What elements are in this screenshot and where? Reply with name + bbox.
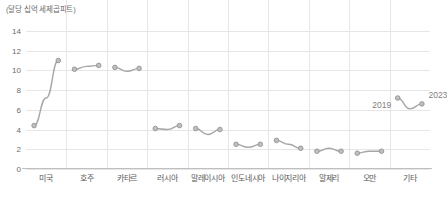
x-axis-label: 나이지리아 — [272, 172, 306, 183]
footer-strip — [0, 190, 435, 203]
x-axis-label: 호주 — [80, 172, 93, 183]
data-point-marker — [315, 149, 320, 154]
series-line — [115, 67, 139, 71]
series-line — [277, 140, 301, 148]
data-point-marker — [274, 138, 279, 143]
x-axis-label: 알제리 — [319, 172, 339, 183]
data-point-marker — [193, 126, 198, 131]
data-point-marker — [420, 102, 425, 107]
data-point-marker — [355, 151, 360, 156]
data-point-marker — [177, 123, 182, 128]
data-point-marker — [234, 142, 239, 147]
y-axis-tick-label: 6 — [17, 105, 21, 114]
y-axis-tick-label: 12 — [12, 46, 21, 55]
axis-unit-title: (달당 십억 세제곱피트) — [6, 3, 76, 14]
data-point-marker — [32, 123, 37, 128]
data-point-marker — [72, 67, 77, 72]
data-point-marker — [153, 126, 158, 131]
series-lines — [26, 21, 430, 169]
point-annotation-label: 2023 — [428, 90, 447, 100]
data-point-marker — [137, 66, 142, 71]
y-axis-tick-label: 14 — [12, 26, 21, 35]
x-axis-label: 인도네시아 — [231, 172, 265, 183]
y-axis-tick-label: 10 — [12, 66, 21, 75]
series-line — [236, 144, 260, 147]
data-point-marker — [339, 149, 344, 154]
data-point-marker — [56, 58, 61, 63]
y-axis-tick-label: 8 — [17, 86, 21, 95]
series-line — [155, 126, 179, 130]
x-axis-label: 오만 — [363, 172, 376, 183]
series-line — [317, 148, 341, 151]
data-point-marker — [258, 142, 263, 147]
x-axis-label: 기타 — [403, 172, 416, 183]
x-axis-label: 카타르 — [117, 172, 137, 183]
y-axis-tick-label: 4 — [17, 125, 21, 134]
data-point-marker — [113, 65, 118, 70]
plot-area: 02468101214 20192023 — [26, 21, 430, 169]
y-axis-tick-label: 0 — [17, 165, 21, 174]
gridline — [26, 169, 430, 170]
data-point-marker — [395, 96, 400, 101]
x-axis-label: 미국 — [39, 172, 52, 183]
x-axis-label: 러시아 — [157, 172, 177, 183]
data-point-marker — [298, 146, 303, 151]
x-axis-labels: 미국호주카타르러시아말레이시아인도네시아나이지리아알제리오만기타 — [26, 172, 430, 188]
data-point-marker — [96, 63, 101, 68]
series-line — [75, 65, 99, 69]
point-annotation-label: 2019 — [372, 100, 391, 110]
x-axis-label: 말레이시아 — [191, 172, 225, 183]
data-point-marker — [218, 127, 223, 132]
series-line — [196, 129, 220, 135]
series-line — [357, 151, 381, 153]
y-axis-tick-label: 2 — [17, 145, 21, 154]
data-point-marker — [379, 149, 384, 154]
series-line — [34, 61, 58, 126]
series-line — [398, 98, 422, 109]
